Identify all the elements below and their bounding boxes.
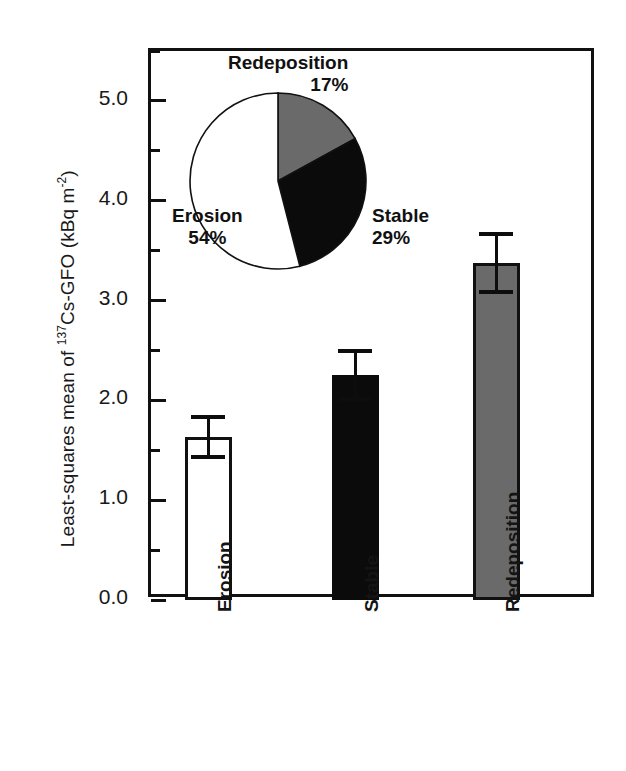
error-bar-cap-lower-stable xyxy=(338,397,372,401)
y-axis-major-tick xyxy=(151,299,166,302)
y-axis-tick-label: 3.0 xyxy=(72,286,128,310)
y-axis-minor-tick xyxy=(151,249,160,252)
y-axis-tick-label-group: 0.01.02.03.04.05.0 xyxy=(58,0,128,771)
error-bar-cap-upper-erosion xyxy=(191,415,225,419)
y-axis-major-tick xyxy=(151,99,166,102)
y-axis-minor-tick xyxy=(151,50,160,53)
pie-label-erosion-name: Erosion xyxy=(172,205,243,226)
y-axis-minor-tick xyxy=(151,449,160,452)
pie-label-redeposition-name: Redeposition xyxy=(228,52,348,73)
error-bar-stem-stable xyxy=(354,351,357,399)
y-axis-tick-label: 0.0 xyxy=(72,585,128,609)
y-axis-tick-label: 5.0 xyxy=(72,86,128,110)
y-axis-major-tick xyxy=(151,599,166,602)
error-bar-cap-lower-redeposition xyxy=(479,290,513,294)
y-axis-minor-tick xyxy=(151,349,160,352)
y-axis-minor-tick xyxy=(151,149,160,152)
pie-label-stable-percent: 29% xyxy=(372,227,429,249)
y-axis-major-tick xyxy=(151,199,166,202)
x-axis-tick-label-redeposition: Redeposition xyxy=(502,492,524,612)
pie-label-redeposition: Redeposition 17% xyxy=(228,52,348,96)
error-bar-cap-lower-erosion xyxy=(191,455,225,459)
y-axis-tick-label: 2.0 xyxy=(72,385,128,409)
x-axis-tick-label-erosion: Erosion xyxy=(214,541,236,612)
error-bar-stem-redeposition xyxy=(495,234,498,292)
y-axis-major-tick xyxy=(151,499,166,502)
pie-label-redeposition-percent: 17% xyxy=(228,74,348,96)
y-axis-tick-label: 1.0 xyxy=(72,485,128,509)
y-axis-minor-tick xyxy=(151,549,160,552)
pie-label-stable: Stable 29% xyxy=(372,205,429,249)
x-axis-tick-label-stable: Stable xyxy=(361,555,383,612)
y-axis-tick-label: 4.0 xyxy=(72,186,128,210)
pie-label-stable-name: Stable xyxy=(372,205,429,226)
error-bar-stem-erosion xyxy=(207,417,210,457)
pie-label-erosion: Erosion 54% xyxy=(172,205,243,249)
y-axis-major-tick xyxy=(151,399,166,402)
pie-label-erosion-percent: 54% xyxy=(172,227,243,249)
figure-bar-chart-with-pie-inset: Least-squares mean of 137Cs-GFO (kBq m-2… xyxy=(0,0,626,771)
error-bar-cap-upper-redeposition xyxy=(479,232,513,236)
error-bar-cap-upper-stable xyxy=(338,349,372,353)
